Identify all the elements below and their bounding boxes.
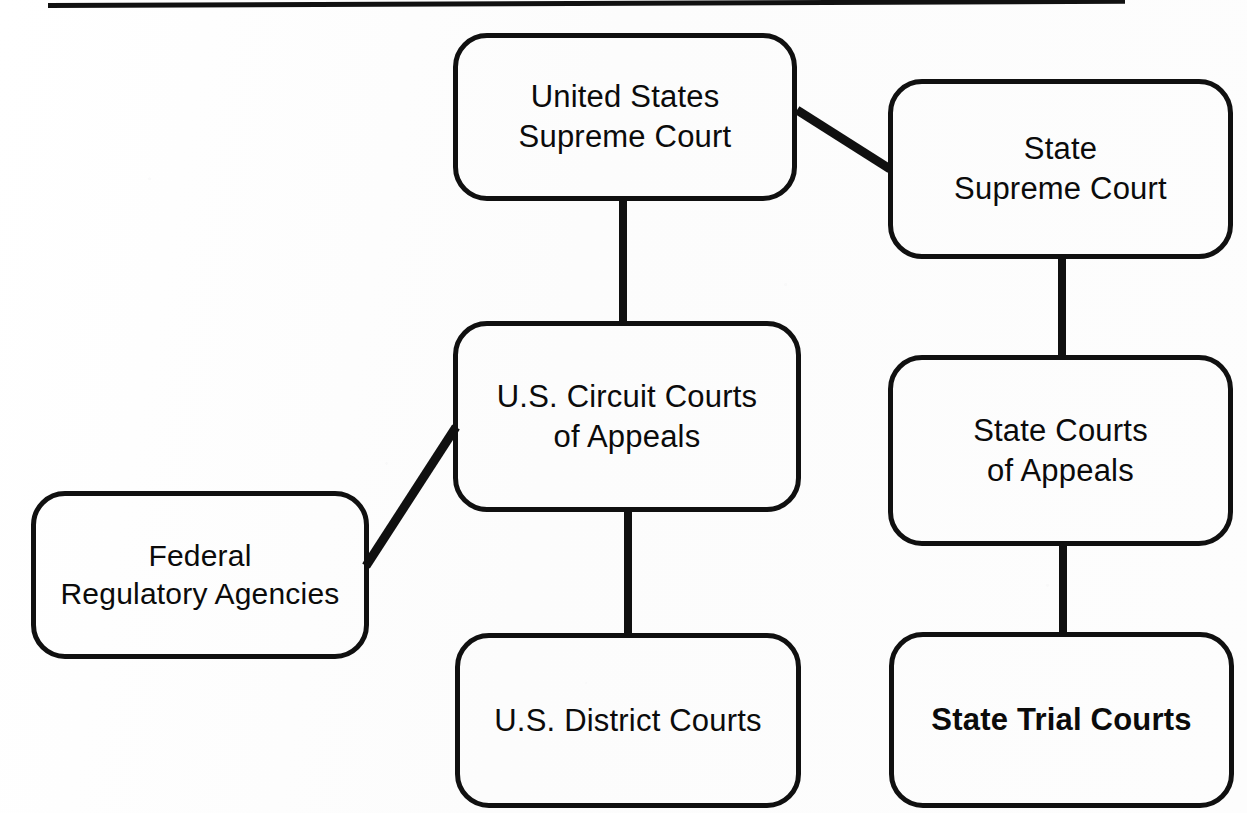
node-state-trial-courts[interactable]: State Trial Courts bbox=[889, 632, 1234, 808]
node-label: Federal Regulatory Agencies bbox=[51, 537, 350, 614]
diagram-canvas: United States Supreme Court State Suprem… bbox=[0, 0, 1247, 813]
node-label: State Courts of Appeals bbox=[963, 411, 1158, 490]
edge-federal-agency-to-us-circuit bbox=[366, 427, 456, 566]
node-us-supreme-court[interactable]: United States Supreme Court bbox=[453, 33, 797, 201]
edge-us-supreme-to-state-supreme bbox=[797, 110, 890, 169]
node-label: U.S. District Courts bbox=[484, 701, 772, 741]
node-label: State Trial Courts bbox=[921, 700, 1201, 740]
node-federal-regulatory-agencies[interactable]: Federal Regulatory Agencies bbox=[31, 491, 369, 659]
node-state-supreme-court[interactable]: State Supreme Court bbox=[888, 79, 1233, 259]
node-label: United States Supreme Court bbox=[509, 77, 742, 156]
node-label: U.S. Circuit Courts of Appeals bbox=[487, 377, 767, 456]
node-us-district-courts[interactable]: U.S. District Courts bbox=[455, 633, 801, 808]
node-us-circuit-courts-of-appeals[interactable]: U.S. Circuit Courts of Appeals bbox=[453, 321, 801, 512]
node-state-courts-of-appeals[interactable]: State Courts of Appeals bbox=[888, 355, 1233, 546]
node-label: State Supreme Court bbox=[944, 129, 1177, 208]
